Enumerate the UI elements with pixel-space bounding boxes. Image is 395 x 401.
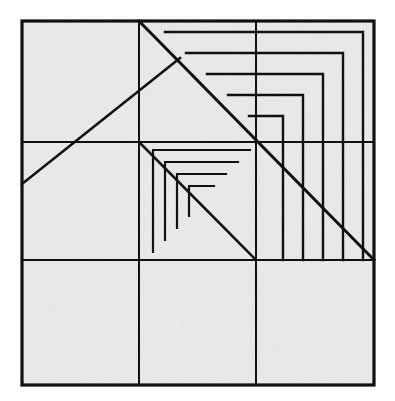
geometric-figure [0,0,395,401]
figure-container [0,0,395,401]
